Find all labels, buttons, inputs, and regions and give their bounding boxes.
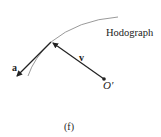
hodograph-label: Hodograph [106, 28, 153, 39]
origin-label: O′ [103, 80, 113, 91]
hodograph-curve [28, 17, 118, 76]
hodograph-diagram: Hodograph a v O′ (f) [0, 0, 161, 137]
acceleration-vector [17, 42, 51, 76]
velocity-label: v [79, 53, 84, 63]
acceleration-label: a [12, 63, 17, 73]
figure-caption: (f) [64, 122, 74, 132]
diagram-graphics [0, 0, 161, 137]
